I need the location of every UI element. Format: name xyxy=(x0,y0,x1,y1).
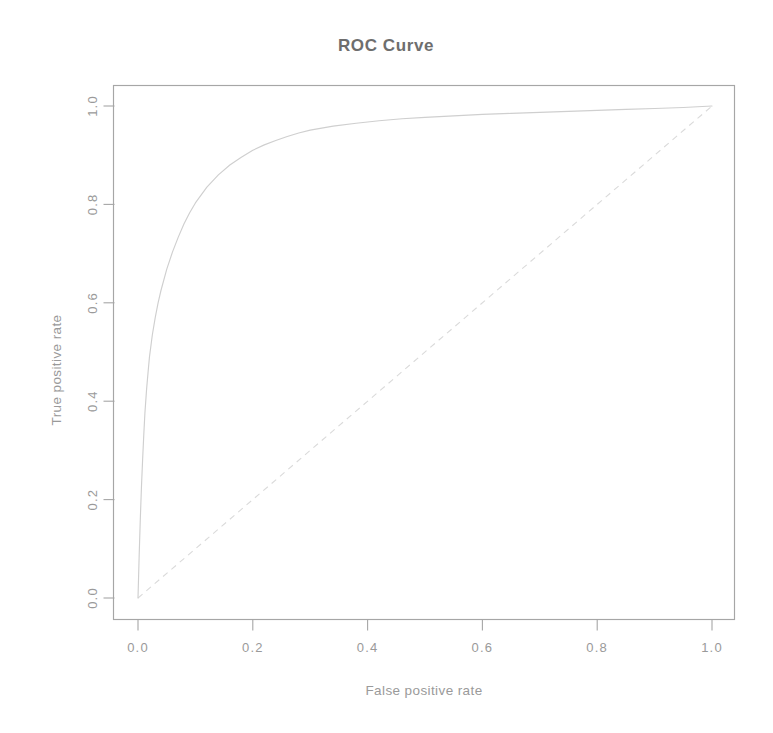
chart-title: ROC Curve xyxy=(338,36,434,55)
x-tick-label: 0.0 xyxy=(127,640,149,655)
chance-reference-line xyxy=(138,106,712,598)
x-tick-label: 0.6 xyxy=(472,640,494,655)
x-axis-ticks: 0.00.20.40.60.81.0 xyxy=(127,620,723,655)
y-tick-label: 0.2 xyxy=(85,489,100,511)
y-tick-label: 1.0 xyxy=(85,95,100,117)
y-tick-label: 0.0 xyxy=(85,587,100,609)
x-tick-label: 1.0 xyxy=(701,640,723,655)
y-tick-label: 0.8 xyxy=(85,194,100,216)
x-tick-label: 0.4 xyxy=(357,640,379,655)
x-tick-label: 0.8 xyxy=(586,640,608,655)
x-axis-label: False positive rate xyxy=(365,683,482,698)
y-tick-label: 0.4 xyxy=(85,390,100,412)
y-tick-label: 0.6 xyxy=(85,292,100,314)
roc-curve-figure: ROC Curve 0.00.20.40.60.81.0 0.00.20.40.… xyxy=(0,0,773,733)
x-tick-label: 0.2 xyxy=(242,640,264,655)
plot-canvas: ROC Curve 0.00.20.40.60.81.0 0.00.20.40.… xyxy=(0,0,773,733)
y-axis-ticks: 0.00.20.40.60.81.0 xyxy=(85,95,115,609)
y-axis-label: True positive rate xyxy=(49,315,64,426)
